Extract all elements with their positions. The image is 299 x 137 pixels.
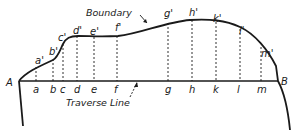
traverse-offset-diagram: a b c d e f g h k l m a' b' c' d' e' f' …: [0, 0, 299, 137]
top-label-k: k': [213, 13, 222, 24]
base-label-c: c: [60, 84, 66, 95]
top-label-e: e': [90, 26, 99, 37]
top-label-f: f': [115, 22, 121, 33]
left-boundary-line: [19, 81, 23, 126]
top-label-m: m': [261, 48, 274, 59]
traverse-line-caption: Traverse Line: [66, 97, 130, 108]
base-label-e: e: [91, 84, 97, 95]
top-label-h: h': [189, 7, 198, 18]
top-label-g: g': [164, 8, 173, 19]
base-labels: a b c d e f g h k l m: [33, 84, 267, 95]
boundary-caption: Boundary: [86, 7, 132, 18]
traverse-arrow-icon: [130, 82, 138, 97]
endpoint-label-b: B: [281, 76, 288, 87]
base-label-k: k: [213, 84, 220, 95]
endpoint-label-a: A: [5, 77, 13, 88]
base-label-g: g: [165, 84, 171, 95]
top-label-l: l': [239, 25, 245, 36]
base-label-a: a: [33, 84, 39, 95]
top-label-a: a': [35, 55, 44, 66]
base-label-m: m: [257, 84, 267, 95]
top-label-d: d': [73, 25, 82, 36]
top-label-c: c': [58, 32, 66, 43]
top-label-b: b': [49, 46, 58, 57]
base-label-b: b: [50, 84, 56, 95]
base-label-d: d: [74, 84, 81, 95]
base-label-f: f: [114, 84, 119, 95]
base-label-l: l: [237, 84, 240, 95]
boundary-arrow-icon: [140, 15, 147, 23]
base-label-h: h: [189, 84, 195, 95]
